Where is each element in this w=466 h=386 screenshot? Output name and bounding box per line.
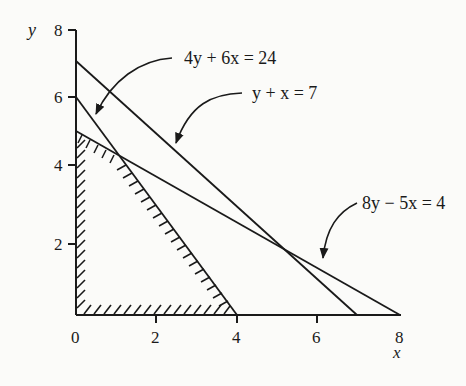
y-tick-4: 4	[54, 156, 63, 175]
arrow-eq2	[176, 93, 242, 143]
y-axis-label: y	[26, 20, 36, 40]
label-eq3: 8y − 5x = 4	[362, 193, 445, 213]
feasible-region-hatching	[77, 135, 230, 314]
label-eq2: y + x = 7	[252, 83, 317, 103]
x-tick-0: 0	[71, 328, 80, 347]
tick-labels: 8 6 4 2 0 2 4 6 8 y x	[26, 20, 404, 362]
x-tick-2: 2	[151, 328, 160, 347]
line-8y-5x-4	[76, 131, 400, 315]
axes	[68, 30, 401, 323]
annotations: 4y + 6x = 24 y + x = 7 8y − 5x = 4	[96, 48, 445, 258]
linear-programming-chart: 8 6 4 2 0 2 4 6 8 y x	[0, 0, 466, 386]
arrow-eq3	[323, 203, 357, 258]
x-tick-4: 4	[232, 328, 241, 347]
label-eq1: 4y + 6x = 24	[184, 48, 276, 68]
y-tick-8: 8	[54, 21, 63, 40]
line-4y-6x-24	[76, 97, 237, 315]
constraint-lines	[76, 61, 400, 315]
x-tick-6: 6	[312, 328, 321, 347]
x-axis-label: x	[392, 343, 401, 362]
y-tick-2: 2	[54, 235, 63, 254]
arrow-eq1	[96, 58, 172, 114]
y-tick-6: 6	[54, 88, 63, 107]
